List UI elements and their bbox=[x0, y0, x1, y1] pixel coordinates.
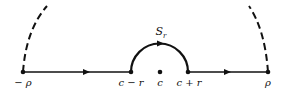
point-minus-rho bbox=[21, 70, 26, 75]
contour-svg bbox=[0, 0, 290, 95]
label-c-minus-r: c − r bbox=[118, 77, 143, 88]
point-c-minus-r bbox=[129, 70, 134, 75]
arrow-semicircle bbox=[157, 41, 164, 47]
right-dashed-arc bbox=[249, 6, 268, 72]
arrow-right-segment bbox=[224, 69, 231, 75]
label-minus-rho: − ρ bbox=[14, 77, 31, 88]
label-arc-s-r: Sr bbox=[156, 25, 167, 40]
arc-label-subscript: r bbox=[163, 32, 166, 40]
semicircle-s-r bbox=[131, 43, 188, 72]
label-rho: ρ bbox=[265, 77, 271, 88]
point-c-plus-r bbox=[186, 70, 191, 75]
contour-diagram: − ρ c − r c c + r ρ Sr bbox=[0, 0, 290, 95]
arrow-left-segment bbox=[83, 69, 90, 75]
left-dashed-arc bbox=[23, 6, 47, 72]
arc-label-main: S bbox=[156, 25, 164, 38]
point-rho bbox=[266, 70, 271, 75]
point-c bbox=[158, 70, 163, 75]
label-c: c bbox=[157, 77, 163, 88]
label-c-plus-r: c + r bbox=[176, 77, 201, 88]
